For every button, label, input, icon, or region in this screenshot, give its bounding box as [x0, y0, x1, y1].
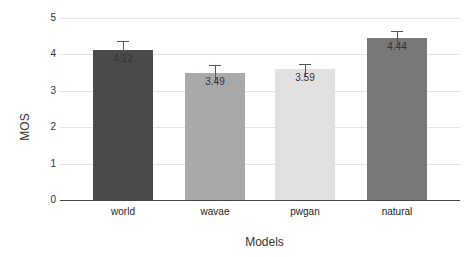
value-label: 4.44 — [367, 41, 427, 52]
value-label: 3.49 — [185, 76, 245, 87]
x-category-label: pwgan — [275, 206, 335, 217]
gridline — [60, 18, 460, 19]
y-tick-label: 3 — [40, 85, 56, 96]
y-tick-label: 1 — [40, 158, 56, 169]
x-axis-line — [60, 200, 460, 201]
error-bar-cap — [209, 65, 221, 66]
bar-wavae — [185, 73, 245, 200]
x-category-label: wavae — [185, 206, 245, 217]
bar-natural — [367, 38, 427, 200]
x-category-label: natural — [367, 206, 427, 217]
y-tick-label: 0 — [40, 194, 56, 205]
bar-pwgan — [275, 69, 335, 200]
value-label: 3.59 — [275, 72, 335, 83]
error-bar-cap — [391, 31, 403, 32]
x-category-label: world — [93, 206, 153, 217]
y-axis-label: MOS — [18, 112, 32, 142]
y-tick-label: 2 — [40, 121, 56, 132]
error-bar-cap — [299, 64, 311, 65]
x-axis-label: Models — [0, 235, 469, 249]
y-tick-label: 4 — [40, 48, 56, 59]
value-label: 4.12 — [93, 53, 153, 64]
bar-world — [93, 50, 153, 200]
error-bar-cap — [117, 41, 129, 42]
y-tick-label: 5 — [40, 12, 56, 23]
